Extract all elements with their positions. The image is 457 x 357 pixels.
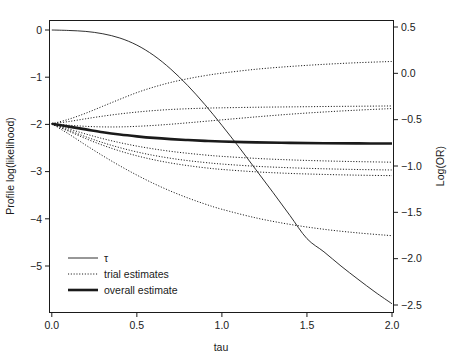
y-axis-left-ticks: 0−1−2−3−4−5 [30,24,49,272]
legend-label: τ [104,252,109,264]
profile-likelihood-chart: 0−1−2−3−4−5 0.50.0−0.5−1.0−1.5−2.0−2.5 0… [0,0,457,357]
x-axis-ticks: 0.00.51.01.52.0 [44,313,399,332]
series-line [52,61,392,123]
y-axis-right-ticks: 0.50.0−0.5−1.0−1.5−2.0−2.5 [394,21,422,311]
y-tick-label-right: −1.5 [401,206,422,218]
y-tick-label-left: −5 [30,260,42,272]
series-line [52,124,392,170]
series-line [52,106,392,124]
y-tick-label-left: −4 [30,213,42,225]
legend-label: overall estimate [104,284,178,296]
x-tick-label: 0.0 [44,319,59,331]
y-tick-label-right: −1.0 [401,160,422,172]
x-tick-label: 0.5 [130,319,145,331]
series-layer [52,30,392,304]
series-line [52,109,392,127]
chart-container: 0−1−2−3−4−5 0.50.0−0.5−1.0−1.5−2.0−2.5 0… [0,0,457,357]
y-tick-label-right: −0.5 [401,113,422,125]
y-tick-label-left: −1 [30,71,42,83]
y-axis-right-title: Log(OR) [434,146,446,186]
y-tick-label-left: −3 [30,165,42,177]
legend-label: trial estimates [104,268,169,280]
y-tick-label-right: 0.0 [401,67,416,79]
x-axis-title: tau [214,341,229,353]
x-tick-label: 1.5 [300,319,315,331]
chart-legend: τtrial estimatesoverall estimate [68,252,178,296]
x-tick-label: 1.0 [215,319,230,331]
series-line [52,30,392,304]
y-tick-label-left: 0 [36,24,42,36]
y-axis-left-title: Profile log(likelihood) [4,117,16,214]
plot-frame [50,21,394,313]
y-tick-label-left: −2 [30,118,42,130]
y-tick-label-right: −2.5 [401,299,422,311]
y-tick-label-right: −2.0 [401,252,422,264]
y-tick-label-right: 0.5 [401,21,416,33]
x-tick-label: 2.0 [385,319,400,331]
